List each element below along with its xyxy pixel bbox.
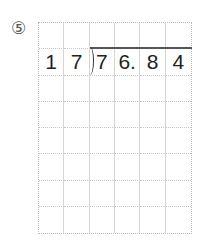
grid-cell[interactable] [166,207,191,233]
grid-cell[interactable] [166,76,191,102]
grid-cell[interactable] [90,23,115,49]
grid-cell[interactable] [115,154,140,180]
dividend-digit: 4 [166,49,191,75]
grid-cell[interactable] [64,23,89,49]
grid-cell[interactable] [140,76,165,102]
grid-cell[interactable] [166,181,191,207]
grid-cell[interactable] [39,128,64,154]
grid-cell[interactable] [166,154,191,180]
grid-cell[interactable] [90,128,115,154]
problem-number: ⑤ [11,20,26,37]
grid-cell[interactable] [115,76,140,102]
grid-cell[interactable] [64,154,89,180]
grid-cell[interactable] [166,102,191,128]
grid-cell[interactable] [140,102,165,128]
grid-cell[interactable] [166,128,191,154]
grid-cell[interactable] [39,102,64,128]
grid-cell[interactable] [39,207,64,233]
grid-cell[interactable] [115,23,140,49]
grid-cell[interactable] [39,76,64,102]
grid-cell[interactable] [90,154,115,180]
division-bracket [86,47,94,75]
grid-cell[interactable] [140,23,165,49]
divisor-digit: 1 [39,49,64,75]
grid-cell[interactable] [39,181,64,207]
grid-cell[interactable] [115,102,140,128]
division-bar [90,47,192,49]
grid-cell[interactable] [90,102,115,128]
grid-cell[interactable] [64,76,89,102]
division-grid: 1 7 7 6. 8 4 [38,22,192,234]
grid-cell[interactable] [140,181,165,207]
grid-cell[interactable] [39,154,64,180]
grid-cell[interactable] [64,181,89,207]
grid-cell[interactable] [90,207,115,233]
grid-cell[interactable] [115,207,140,233]
grid-cell[interactable] [140,128,165,154]
grid-cell[interactable] [39,23,64,49]
grid-cell[interactable] [140,207,165,233]
grid-cell[interactable] [64,128,89,154]
grid-cell[interactable] [64,102,89,128]
grid-cell[interactable] [115,181,140,207]
grid-cell[interactable] [115,128,140,154]
grid-cell[interactable] [166,23,191,49]
dividend-digit: 6. [115,49,140,75]
grid-cell[interactable] [90,76,115,102]
grid-cell[interactable] [64,207,89,233]
dividend-digit: 8 [140,49,165,75]
grid-cell[interactable] [140,154,165,180]
grid-cell[interactable] [90,181,115,207]
